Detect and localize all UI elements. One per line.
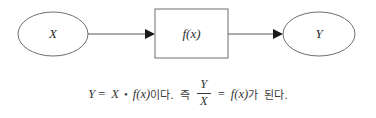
caption-text-jeuk: 즉 — [180, 86, 190, 102]
caption-function-expression: f(x) — [133, 87, 150, 102]
caption-equals-second: = — [215, 87, 228, 102]
multiplication-dot-icon: • — [119, 88, 133, 100]
flowchart-canvas: X f(x) Y — [0, 0, 376, 70]
fraction-numerator: Y — [198, 78, 209, 92]
fraction-denominator: X — [198, 95, 210, 109]
caption-lhs-variable: Y — [88, 87, 95, 102]
caption-fraction: YX — [197, 78, 211, 108]
node-function-label: f(x) — [182, 26, 200, 41]
caption-text-ida: 이다. — [150, 86, 174, 102]
caption-equals-first: = — [95, 87, 108, 102]
caption-text-ga: 가 — [248, 86, 258, 102]
edge-function-to-output-arrowhead — [273, 29, 283, 39]
equation-caption: Y=X•f(x)이다.즉YX=f(x)가된다. — [0, 72, 376, 116]
edge-input-to-function-arrowhead — [145, 29, 155, 39]
caption-factor-variable: X — [111, 87, 119, 102]
caption-text-doenda: 된다. — [264, 86, 288, 102]
caption-function-expression-2: f(x) — [231, 87, 248, 102]
diagram-page: X f(x) Y Y=X•f(x)이다.즉YX=f(x)가된다. — [0, 0, 376, 118]
node-input-label: X — [48, 26, 58, 41]
